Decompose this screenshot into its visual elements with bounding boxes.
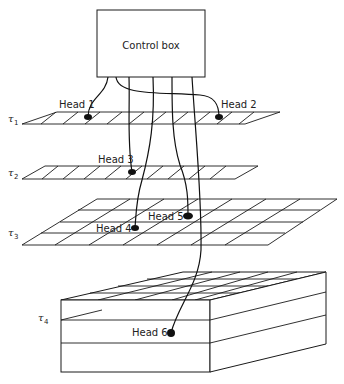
head-2-dot bbox=[215, 114, 223, 120]
head-6-label: Head 6 bbox=[132, 327, 168, 338]
tau4-label: τ 4 bbox=[38, 312, 49, 326]
plane-tau3 bbox=[22, 199, 337, 245]
svg-text:4: 4 bbox=[44, 318, 49, 326]
tau1-label: τ 1 bbox=[8, 113, 18, 127]
head-5-label: Head 5 bbox=[148, 211, 184, 222]
head-3-dot bbox=[128, 169, 136, 175]
head-2-label: Head 2 bbox=[221, 99, 257, 110]
tau3-label: τ 3 bbox=[8, 227, 18, 241]
svg-text:2: 2 bbox=[14, 173, 18, 181]
head-4-label: Head 4 bbox=[96, 223, 132, 234]
tau2-label: τ 2 bbox=[8, 167, 18, 181]
plane-tau1 bbox=[22, 112, 280, 124]
plane-tau2 bbox=[22, 166, 258, 179]
head-3: Head 3 bbox=[98, 154, 136, 175]
control-box-label: Control box bbox=[122, 40, 179, 51]
head-6-dot bbox=[167, 329, 175, 337]
head-5-dot bbox=[183, 213, 193, 220]
control-box: Control box bbox=[97, 10, 205, 77]
multi-head-control-diagram: Control box Head 1 Head 2 Head 3 Head 4 … bbox=[0, 0, 344, 384]
head-1-dot bbox=[84, 114, 92, 120]
svg-text:3: 3 bbox=[14, 233, 18, 241]
head-3-label: Head 3 bbox=[98, 154, 134, 165]
block-tau4 bbox=[61, 272, 326, 372]
svg-text:1: 1 bbox=[14, 119, 18, 127]
head-2: Head 2 bbox=[215, 99, 257, 120]
head-1-label: Head 1 bbox=[59, 99, 95, 110]
head-4-dot bbox=[131, 225, 139, 231]
head-1: Head 1 bbox=[59, 99, 95, 120]
head-4: Head 4 bbox=[96, 223, 139, 234]
head-5: Head 5 bbox=[148, 211, 193, 222]
